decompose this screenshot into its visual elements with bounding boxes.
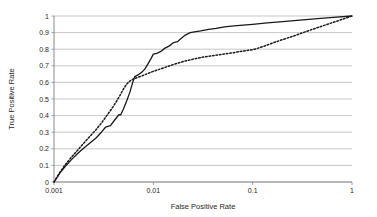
y-axis-title: True Positive Rate [7,68,16,129]
y-tick-label: 0.8 [39,46,49,53]
x-tick-label: 1 [350,187,354,194]
x-tick-label: 0.1 [248,187,258,194]
y-tick-label: 0.4 [39,112,49,119]
y-tick-label: 0.9 [39,29,49,36]
y-tick-label: 0.1 [39,162,49,169]
roc-chart: 00.10.20.30.40.50.60.70.80.91 0.0010.010… [0,0,377,217]
x-tick-label: 0.001 [45,187,63,194]
y-tick-label: 0.7 [39,62,49,69]
x-axis-tick-labels: 0.0010.010.11 [45,187,354,194]
x-axis-title: False Positive Rate [171,202,236,211]
y-tick-label: 1 [45,13,49,20]
x-tick-label: 0.01 [147,187,161,194]
roc-plot-svg: 00.10.20.30.40.50.60.70.80.91 0.0010.010… [0,0,377,217]
y-tick-label: 0 [45,179,49,186]
y-tick-label: 0.6 [39,79,49,86]
y-tick-label: 0.2 [39,145,49,152]
y-axis-tick-labels: 00.10.20.30.40.50.60.70.80.91 [39,13,54,186]
y-tick-label: 0.3 [39,129,49,136]
y-tick-label: 0.5 [39,96,49,103]
